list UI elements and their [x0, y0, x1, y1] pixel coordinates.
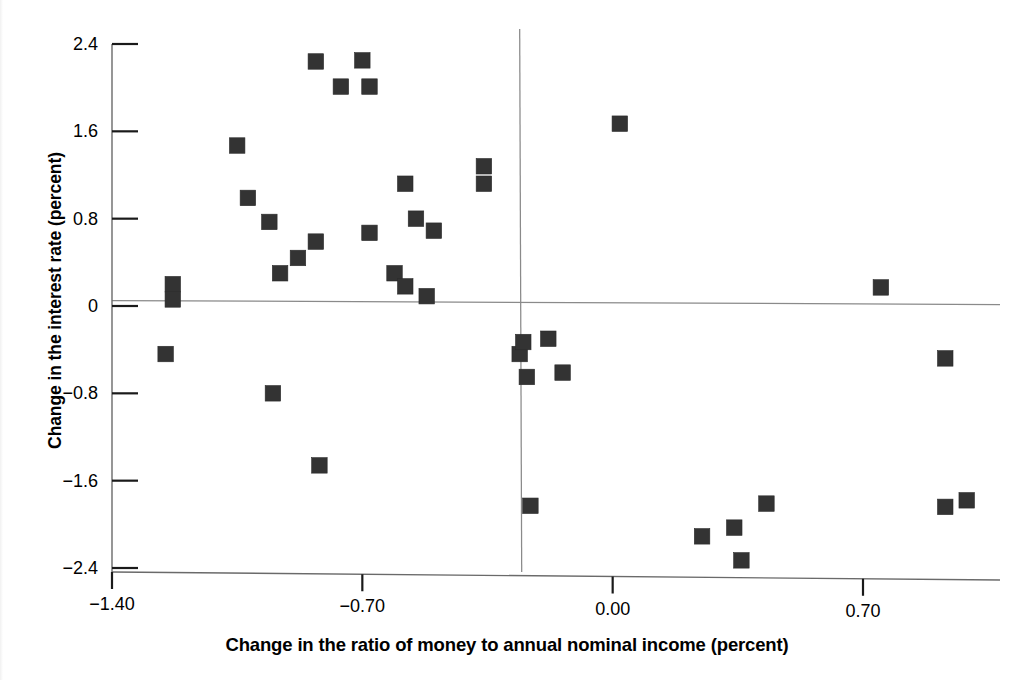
y-axis-title: Change in the interest rate (percent) — [45, 152, 65, 449]
data-point-marker — [694, 529, 710, 545]
data-point-marker — [165, 276, 181, 292]
y-tick-label: 0 — [88, 296, 98, 317]
y-tick-label: −1.6 — [62, 470, 98, 491]
data-point-marker — [308, 234, 324, 250]
data-point-marker — [312, 458, 328, 474]
scatter-plot-figure: 2.41.60.80−0.8−1.6−2.4−1.40−0.700.000.70… — [0, 0, 1014, 680]
data-point-marker — [265, 386, 281, 402]
reference-lines — [112, 29, 1000, 572]
plot-area — [0, 0, 1014, 680]
data-point-marker — [516, 334, 532, 350]
data-point-marker — [272, 266, 288, 282]
data-point-marker — [476, 159, 492, 175]
y-tick-label: 1.6 — [73, 121, 98, 142]
data-point-marker — [734, 553, 750, 569]
x-tick-label: −1.40 — [89, 594, 135, 615]
data-point-marker — [555, 365, 571, 381]
x-tick-label: 0.00 — [595, 599, 630, 620]
data-point-marker — [229, 138, 245, 154]
scatter-plot-canvas — [0, 0, 1014, 680]
data-point-marker — [333, 79, 349, 95]
x-axis-title: Change in the ratio of money to annual n… — [0, 634, 1014, 656]
reference-line-horizontal — [112, 301, 1000, 305]
data-point-marker — [308, 54, 324, 70]
data-point-marker — [541, 331, 557, 347]
data-point-marker — [426, 223, 442, 239]
data-point-marker — [362, 225, 378, 241]
data-point-marker — [362, 79, 378, 95]
y-tick-label: −0.8 — [62, 383, 98, 404]
data-point-marker — [959, 493, 975, 509]
data-point-marker — [873, 280, 889, 296]
data-point-marker — [612, 116, 628, 132]
y-tick-label: 0.8 — [73, 208, 98, 229]
data-point-marker — [408, 211, 424, 227]
data-point-marker — [290, 250, 306, 266]
x-tick-label: 0.70 — [845, 601, 880, 622]
data-point-marker — [476, 176, 492, 192]
data-point-marker — [262, 214, 278, 230]
data-point-marker — [759, 496, 775, 512]
axis-lines — [112, 44, 1000, 580]
x-axis-spine — [112, 572, 1000, 580]
data-point-marker — [727, 520, 743, 536]
x-tick-label: −0.70 — [340, 596, 386, 617]
data-point-marker — [398, 279, 414, 295]
data-point-marker — [519, 369, 535, 385]
data-point-marker — [165, 292, 181, 308]
data-point-marker — [419, 288, 435, 304]
y-axis-title-wrapper: Change in the interest rate (percent) — [45, 41, 66, 561]
reference-line-vertical — [520, 29, 522, 572]
data-point-marker — [158, 346, 174, 362]
tick-marks — [112, 44, 863, 596]
data-point-marker — [938, 351, 954, 367]
data-point-marker — [355, 53, 371, 68]
data-point-marker — [523, 498, 539, 514]
data-point-marker — [938, 499, 954, 515]
y-tick-label: 2.4 — [73, 34, 98, 55]
y-tick-label: −2.4 — [62, 558, 98, 579]
data-points — [158, 53, 975, 568]
data-point-marker — [398, 176, 414, 192]
data-point-marker — [240, 190, 256, 206]
